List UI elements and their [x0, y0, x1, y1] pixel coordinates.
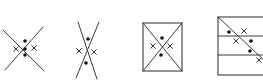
panel-fig1	[3, 27, 44, 71]
dot-icon	[160, 36, 164, 40]
cross-icon	[233, 38, 238, 43]
line	[218, 17, 263, 64]
cross-icon	[256, 57, 261, 62]
dot-icon	[23, 47, 27, 51]
dot-icon	[249, 39, 253, 43]
dot-icon	[227, 30, 231, 34]
cross-icon	[91, 49, 96, 54]
cross-icon	[150, 43, 155, 48]
panel-fig3	[143, 23, 182, 71]
dot-icon	[248, 49, 252, 53]
panel-fig2	[76, 22, 99, 79]
cross-icon	[241, 28, 246, 33]
dot-icon	[159, 53, 163, 57]
cross-icon	[13, 46, 18, 51]
cross-icon	[167, 43, 172, 48]
dot-icon	[23, 53, 27, 57]
dot-icon	[86, 37, 90, 41]
dot-icon	[84, 61, 88, 65]
cross-icon	[76, 48, 81, 53]
diagram-canvas	[0, 0, 263, 84]
frame-rect	[218, 17, 263, 75]
dot-icon	[23, 39, 27, 43]
cross-icon	[31, 45, 36, 50]
panel-fig4	[218, 17, 263, 75]
